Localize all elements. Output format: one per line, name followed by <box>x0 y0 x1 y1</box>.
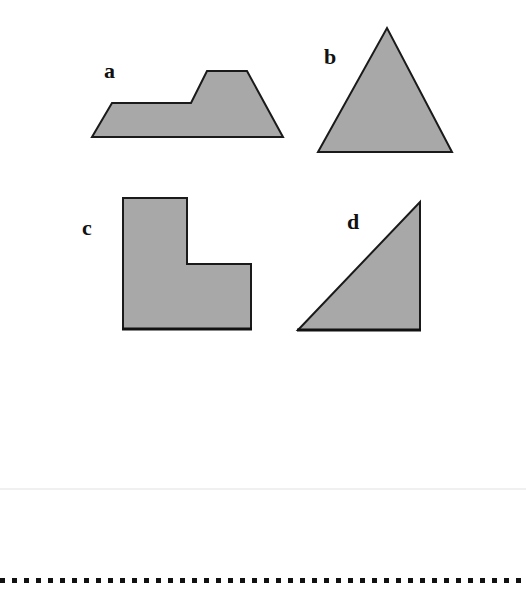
shapes-worksheet: a b c d <box>0 0 526 611</box>
faint-divider <box>0 488 526 490</box>
label-a: a <box>104 60 115 82</box>
shape-b <box>318 28 452 152</box>
label-c: c <box>82 217 92 239</box>
label-b: b <box>324 46 336 68</box>
shape-a <box>92 71 283 137</box>
label-d: d <box>347 211 359 233</box>
shapes-canvas <box>0 0 526 611</box>
dotted-separator <box>0 578 526 584</box>
shape-c <box>123 198 251 329</box>
